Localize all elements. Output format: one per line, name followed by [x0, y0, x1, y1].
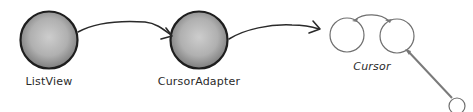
cursoradapter-node — [171, 12, 228, 69]
arrow-cursoradapter-to-cursor — [229, 21, 320, 39]
cursoradapter-label: CursorAdapter — [158, 75, 240, 88]
listview-label: ListView — [26, 75, 73, 88]
cursor-glasses-icon — [330, 15, 465, 112]
diagram-canvas — [0, 0, 473, 112]
cursor-label: Cursor — [353, 60, 390, 73]
listview-node — [21, 12, 78, 69]
arrow-listview-to-cursoradapter — [78, 21, 172, 39]
